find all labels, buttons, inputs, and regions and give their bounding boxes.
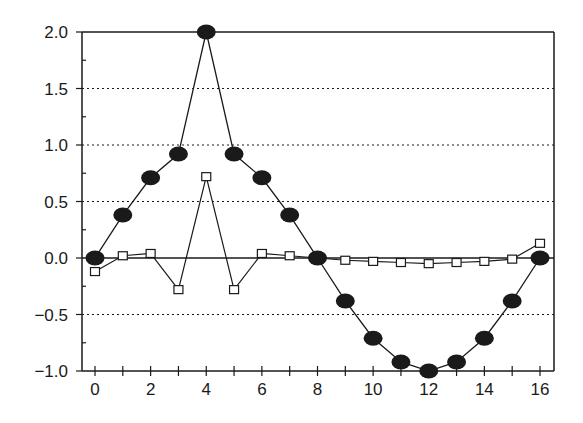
square-marker: [536, 239, 545, 247]
square-marker: [452, 259, 461, 267]
x-tick-label: 6: [257, 380, 266, 399]
y-tick-label: −1.0: [34, 362, 68, 381]
square-marker: [369, 257, 378, 265]
x-tick-label: 0: [90, 380, 99, 399]
circle-marker: [364, 331, 383, 346]
x-tick-label: 16: [531, 380, 550, 399]
y-tick-label: 1.5: [44, 80, 68, 99]
circle-marker: [503, 293, 522, 308]
x-tick-label: 2: [146, 380, 155, 399]
circle-marker: [86, 251, 105, 266]
x-tick-label: 10: [364, 380, 383, 399]
square-marker: [285, 252, 294, 260]
square-marker: [480, 257, 489, 265]
y-tick-label: 0.5: [44, 193, 68, 212]
open-squares-line: [95, 177, 540, 290]
circle-marker: [252, 170, 271, 185]
square-marker: [230, 286, 239, 294]
square-marker: [508, 255, 517, 263]
circle-marker: [419, 364, 438, 379]
square-marker: [118, 252, 127, 260]
x-tick-label: 4: [202, 380, 211, 399]
square-marker: [424, 260, 433, 268]
square-marker: [396, 259, 405, 267]
square-marker: [202, 173, 211, 181]
circle-marker: [336, 293, 355, 308]
line-chart: 2.01.51.00.50.0−0.5−1.00246810121416: [0, 0, 583, 423]
circle-marker: [531, 251, 550, 266]
circle-marker: [308, 251, 327, 266]
y-tick-label: 2.0: [44, 23, 68, 42]
axes: [76, 32, 554, 376]
square-marker: [257, 249, 266, 257]
square-marker: [91, 268, 100, 276]
square-marker: [174, 286, 183, 294]
circle-marker: [113, 208, 132, 223]
circle-marker: [447, 354, 466, 369]
circle-marker: [225, 147, 244, 162]
grid-lines: [82, 89, 554, 315]
x-tick-label: 14: [475, 380, 494, 399]
circle-marker: [391, 354, 410, 369]
circle-marker: [141, 170, 160, 185]
y-tick-label: 1.0: [44, 136, 68, 155]
x-tick-label: 12: [419, 380, 438, 399]
circle-marker: [475, 331, 494, 346]
circle-marker: [169, 147, 188, 162]
circle-marker: [197, 25, 216, 40]
y-tick-label: 0.0: [44, 249, 68, 268]
square-marker: [341, 256, 350, 264]
circle-marker: [280, 208, 299, 223]
y-tick-label: −0.5: [34, 306, 68, 325]
x-tick-label: 8: [313, 380, 322, 399]
square-marker: [146, 249, 155, 257]
